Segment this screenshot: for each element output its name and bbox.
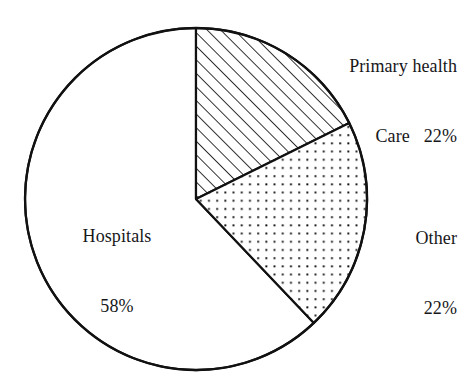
pie-label-hospitals-name: Hospitals	[55, 225, 179, 248]
pie-label-hospitals-value: 58%	[55, 295, 179, 318]
pie-label-other-name: Other	[416, 227, 457, 250]
pie-label-primary-health-care-name: Primary health	[349, 55, 457, 78]
pie-label-hospitals: Hospitals 58%	[55, 178, 179, 365]
pie-label-primary-health-care-value: Care 22%	[349, 125, 457, 148]
pie-chart: Primary health Care 22% Other 22% Hospit…	[0, 0, 465, 388]
pie-label-other: Other 22%	[416, 180, 457, 367]
pie-label-other-value: 22%	[416, 297, 457, 320]
pie-label-primary-health-care: Primary health Care 22%	[349, 8, 457, 195]
